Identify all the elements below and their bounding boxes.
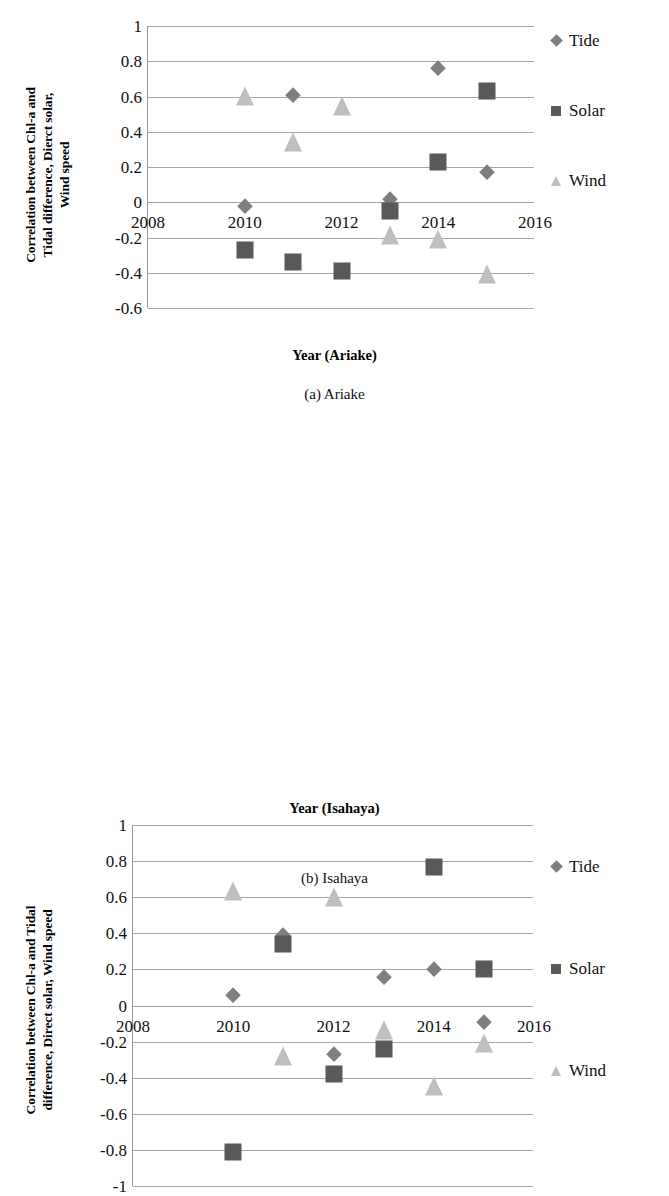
data-point-solar — [225, 1143, 242, 1160]
data-point-tide — [476, 1014, 491, 1029]
legend-isahaya: TideSolarWind — [548, 858, 606, 1079]
y-axis-tick-label: 0.2 — [121, 159, 142, 176]
gridline — [148, 238, 534, 239]
y-axis-tick-label: 0.6 — [106, 889, 127, 906]
data-point-solar — [430, 153, 447, 170]
data-point-wind — [429, 229, 447, 248]
legend-label: Wind — [569, 172, 606, 189]
data-point-tide — [431, 61, 446, 76]
data-point-tide — [376, 969, 391, 984]
gridline — [148, 26, 534, 27]
x-axis-tick-label: 2010 — [228, 214, 262, 231]
legend-label: Wind — [569, 1062, 606, 1079]
gridline — [133, 1114, 533, 1115]
figure-ariake: Correlation between Chl-a and Tidal diff… — [0, 0, 669, 400]
gridline — [148, 308, 534, 309]
data-point-solar — [478, 83, 495, 100]
y-axis-tick-label: 0.2 — [106, 961, 127, 978]
x-axis-tick-label: 2016 — [518, 214, 552, 231]
x-axis-tick-label: 2008 — [116, 1017, 150, 1034]
legend-item-wind[interactable]: Wind — [548, 1062, 606, 1079]
data-point-solar — [375, 1040, 392, 1057]
gridline — [133, 969, 533, 970]
y-axis-tick-label: 0.8 — [106, 853, 127, 870]
data-point-wind — [425, 1077, 443, 1096]
legend-label: Solar — [569, 102, 605, 119]
x-axis-title: Year (Ariake) — [0, 347, 669, 364]
x-axis-tick-label: 2012 — [317, 1017, 351, 1034]
y-axis-tick-label: 0.6 — [121, 88, 142, 105]
data-point-wind — [375, 1021, 393, 1040]
gridline — [133, 861, 533, 862]
legend-item-wind[interactable]: Wind — [548, 172, 606, 189]
data-point-wind — [325, 887, 343, 906]
x-axis-title: Year (Isahaya) — [0, 800, 669, 817]
y-axis-tick-label: -0.6 — [115, 300, 142, 317]
square-marker-icon — [548, 103, 564, 119]
gridline — [148, 167, 534, 168]
x-axis-tick-label: 2014 — [417, 1017, 451, 1034]
diamond-marker-icon — [548, 33, 564, 49]
legend-item-tide[interactable]: Tide — [548, 32, 606, 49]
y-axis-tick-label: 0 — [119, 997, 128, 1014]
x-axis-tick-label: 2016 — [517, 1017, 551, 1034]
data-point-tide — [426, 962, 441, 977]
gridline — [133, 825, 533, 826]
legend-label: Solar — [569, 960, 605, 977]
data-point-solar — [381, 203, 398, 220]
gridline — [133, 1150, 533, 1151]
x-axis-tick-label: 2010 — [216, 1017, 250, 1034]
y-axis-tick-label: -0.8 — [100, 1141, 127, 1158]
data-point-wind — [475, 1033, 493, 1052]
data-point-wind — [381, 226, 399, 245]
legend-item-solar[interactable]: Solar — [548, 102, 606, 119]
square-marker-icon — [548, 961, 564, 977]
legend-ariake: TideSolarWind — [548, 32, 606, 189]
y-axis-tick-label: 0 — [134, 194, 143, 211]
legend-label: Tide — [569, 32, 600, 49]
gridline — [148, 202, 534, 203]
gridline — [148, 61, 534, 62]
y-axis-tick-label: 1 — [134, 18, 143, 35]
legend-item-solar[interactable]: Solar — [548, 960, 606, 977]
data-point-tide — [237, 198, 252, 213]
data-point-tide — [285, 87, 300, 102]
data-point-solar — [333, 262, 350, 279]
x-axis-tick-label: 2008 — [131, 214, 165, 231]
y-axis-tick-label: 0.4 — [106, 925, 127, 942]
y-axis-tick-label: -0.4 — [100, 1069, 127, 1086]
y-axis-tick-label: 0.8 — [121, 53, 142, 70]
data-point-solar — [275, 936, 292, 953]
gridline — [133, 1006, 533, 1007]
data-point-wind — [236, 86, 254, 105]
x-axis-tick-label: 2012 — [325, 214, 359, 231]
data-point-solar — [325, 1066, 342, 1083]
y-axis-title: Correlation between Chl-a and Tidal diff… — [22, 15, 73, 335]
y-axis-tick-label: -0.6 — [100, 1105, 127, 1122]
y-axis-tick-label: -1 — [113, 1178, 127, 1195]
data-point-solar — [475, 961, 492, 978]
gridline — [133, 1186, 533, 1187]
data-point-tide — [226, 987, 241, 1002]
y-axis-tick-label: -0.4 — [115, 264, 142, 281]
data-point-wind — [274, 1046, 292, 1065]
figure-caption: (b) Isahaya — [0, 870, 669, 887]
triangle-marker-icon — [548, 173, 564, 189]
data-point-solar — [236, 241, 253, 258]
triangle-marker-icon — [548, 1063, 564, 1079]
y-axis-tick-label: -0.2 — [100, 1033, 127, 1050]
data-point-solar — [285, 254, 302, 271]
data-point-wind — [333, 97, 351, 116]
gridline — [148, 132, 534, 133]
y-axis-tick-label: 0.4 — [121, 123, 142, 140]
data-point-tide — [326, 1047, 341, 1062]
gridline — [133, 1042, 533, 1043]
plot-area-ariake: 10.80.60.40.20-0.2-0.4-0.620082010201220… — [147, 26, 534, 308]
data-point-wind — [284, 132, 302, 151]
figure-isahaya: Correlation between Chl-a and Tidal diff… — [0, 400, 669, 886]
gridline — [133, 933, 533, 934]
data-point-wind — [478, 264, 496, 283]
y-axis-tick-label: 1 — [119, 817, 128, 834]
